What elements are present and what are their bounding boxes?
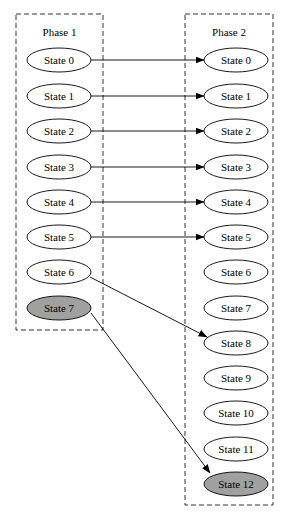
phase1-node[interactable]: State 7: [27, 296, 91, 320]
phase1-node[interactable]: State 4: [27, 190, 91, 214]
phase1-node[interactable]: State 0: [27, 48, 91, 72]
edges: [90, 60, 210, 473]
state-label: State 5: [221, 231, 252, 243]
state-label: State 1: [44, 90, 74, 102]
state-label: State 3: [221, 161, 252, 173]
state-label: State 2: [221, 125, 251, 137]
state-label: State 6: [44, 266, 75, 278]
cluster-title: Phase 1: [43, 26, 77, 38]
phase2-node[interactable]: State 8: [204, 331, 268, 355]
phase1-node[interactable]: State 2: [27, 119, 91, 143]
state-label: State 4: [221, 196, 252, 208]
state-label: State 0: [44, 54, 75, 66]
state-label: State 7: [44, 302, 75, 314]
cluster-title: Phase 2: [212, 26, 246, 38]
phase2-node[interactable]: State 6: [204, 260, 268, 284]
phase2-node[interactable]: State 3: [204, 155, 268, 179]
state-label: State 5: [44, 231, 75, 243]
phase2-node[interactable]: State 2: [204, 119, 268, 143]
phase1-node[interactable]: State 5: [27, 225, 91, 249]
phase2-node[interactable]: State 1: [204, 84, 268, 108]
state-transition-diagram: Phase 1Phase 2 State 0State 1State 2Stat…: [0, 0, 290, 519]
state-label: State 7: [221, 302, 252, 314]
state-label: State 3: [44, 161, 75, 173]
transition-edge: [91, 313, 210, 473]
diagram-canvas: Phase 1Phase 2 State 0State 1State 2Stat…: [0, 0, 290, 519]
state-label: State 1: [221, 90, 251, 102]
state-label: State 2: [44, 125, 74, 137]
phase1-node[interactable]: State 1: [27, 84, 91, 108]
phase1-node[interactable]: State 3: [27, 155, 91, 179]
state-label: State 8: [221, 337, 252, 349]
state-label: State 4: [44, 196, 75, 208]
phase2-node[interactable]: State 4: [204, 190, 268, 214]
phase2-node[interactable]: State 10: [204, 401, 268, 425]
state-label: State 0: [221, 54, 252, 66]
phase2-node[interactable]: State 11: [204, 437, 268, 461]
state-label: State 12: [218, 478, 254, 490]
state-label: State 11: [218, 443, 253, 455]
phase1-node[interactable]: State 6: [27, 260, 91, 284]
phase2-node[interactable]: State 12: [204, 472, 268, 496]
phase2-node[interactable]: State 0: [204, 48, 268, 72]
nodes: State 0State 1State 2State 3State 4State…: [27, 48, 268, 496]
transition-edge: [90, 277, 207, 337]
state-label: State 10: [218, 407, 254, 419]
state-label: State 6: [221, 266, 252, 278]
phase2-node[interactable]: State 7: [204, 296, 268, 320]
phase2-node[interactable]: State 9: [204, 366, 268, 390]
phase2-node[interactable]: State 5: [204, 225, 268, 249]
state-label: State 9: [221, 372, 252, 384]
